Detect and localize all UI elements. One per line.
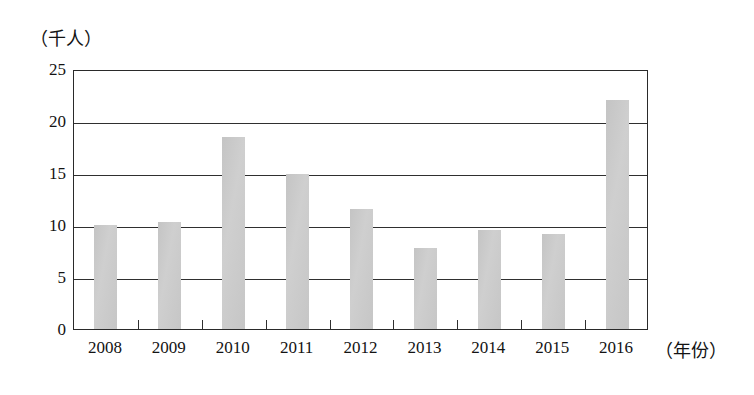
x-axis-tick	[457, 320, 458, 329]
x-axis-tick	[266, 320, 267, 329]
bar-2016	[606, 100, 629, 329]
x-tick-label: 2015	[517, 338, 587, 358]
y-tick-label: 20	[6, 113, 66, 130]
bar-2012	[350, 209, 373, 329]
x-axis-tick	[330, 320, 331, 329]
x-axis-tick-labels: 200820092010201120122013201420152016	[73, 338, 648, 366]
y-tick-label: 25	[6, 61, 66, 78]
x-axis-tick	[521, 320, 522, 329]
bar-2008	[94, 225, 117, 329]
bar-2009	[158, 222, 181, 329]
x-axis-tick	[138, 320, 139, 329]
bar-2014	[478, 230, 501, 329]
x-axis-tick	[585, 320, 586, 329]
bar-series	[74, 71, 647, 329]
x-tick-label: 2012	[326, 338, 396, 358]
y-axis-tick-labels: 0510152025	[0, 70, 66, 330]
y-tick-label: 5	[6, 269, 66, 286]
chart-figure: （千人） 0510152025 200820092010201120122013…	[0, 0, 754, 395]
bar-2015	[542, 234, 565, 329]
y-tick-label: 15	[6, 165, 66, 182]
x-tick-label: 2008	[70, 338, 140, 358]
y-axis-unit-label: （千人）	[30, 24, 102, 50]
x-tick-label: 2014	[453, 338, 523, 358]
x-tick-label: 2009	[134, 338, 204, 358]
x-tick-label: 2010	[198, 338, 268, 358]
bar-2013	[414, 248, 437, 329]
bar-2010	[222, 137, 245, 329]
x-tick-label: 2016	[581, 338, 651, 358]
y-tick-label: 0	[6, 321, 66, 338]
bar-2011	[286, 174, 309, 329]
x-axis-tick	[393, 320, 394, 329]
x-axis-tick	[202, 320, 203, 329]
x-tick-label: 2011	[262, 338, 332, 358]
plot-area	[73, 70, 648, 330]
x-tick-label: 2013	[389, 338, 459, 358]
y-tick-label: 10	[6, 217, 66, 234]
x-axis-unit-label: （年份）	[655, 336, 727, 362]
